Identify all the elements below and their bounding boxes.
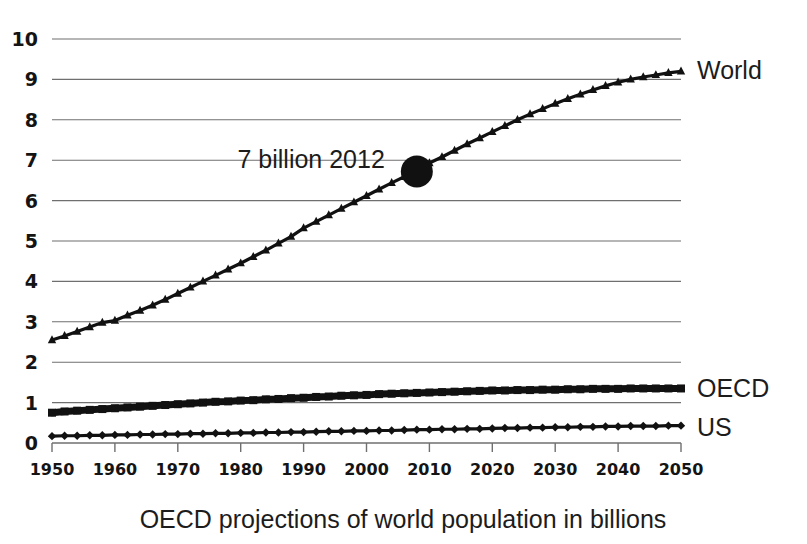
- data-point-marker: [136, 403, 144, 411]
- x-tick-label: 2050: [659, 460, 704, 479]
- data-point-marker: [677, 421, 685, 429]
- data-point-marker: [174, 400, 182, 408]
- data-point-marker: [425, 389, 433, 397]
- y-tick-label: 6: [25, 190, 38, 212]
- data-point-marker: [224, 429, 232, 437]
- data-point-marker: [287, 428, 295, 436]
- data-point-marker: [375, 390, 383, 398]
- data-point-marker: [274, 428, 282, 436]
- data-point-marker: [98, 431, 106, 439]
- data-point-marker: [576, 385, 584, 393]
- y-tick-label: 7: [25, 149, 38, 171]
- data-point-marker: [564, 423, 572, 431]
- series-layer: [48, 66, 685, 440]
- x-tick-label: 1960: [93, 460, 138, 479]
- data-point-marker: [212, 398, 220, 406]
- data-point-marker: [211, 429, 219, 437]
- x-axis-ticks: [52, 443, 681, 452]
- series-label-us: US: [697, 413, 732, 441]
- x-tick-label: 1990: [281, 460, 326, 479]
- data-point-marker: [73, 432, 81, 440]
- data-point-marker: [363, 391, 371, 399]
- data-point-marker: [463, 425, 471, 433]
- x-tick-label: 2020: [470, 460, 515, 479]
- series-us: [48, 421, 685, 440]
- series-label-world: World: [697, 56, 762, 84]
- series-line: [52, 71, 681, 340]
- y-tick-label: 5: [25, 230, 38, 252]
- data-point-marker: [513, 386, 521, 394]
- data-point-marker: [639, 384, 647, 392]
- y-tick-label: 1: [25, 392, 38, 414]
- data-point-marker: [476, 387, 484, 395]
- data-point-marker: [274, 395, 282, 403]
- data-point-marker: [98, 405, 106, 413]
- data-point-marker: [86, 406, 94, 414]
- data-point-marker: [325, 427, 333, 435]
- data-point-marker: [48, 432, 56, 440]
- data-point-marker: [199, 399, 207, 407]
- data-point-marker: [186, 430, 194, 438]
- data-point-marker: [538, 423, 546, 431]
- data-point-marker: [249, 429, 257, 437]
- data-point-marker: [400, 426, 408, 434]
- data-point-marker: [387, 426, 395, 434]
- y-axis-tick-labels: 012345678910: [12, 28, 38, 454]
- x-tick-label: 1980: [218, 460, 263, 479]
- data-point-marker: [589, 385, 597, 393]
- data-point-marker: [438, 388, 446, 396]
- data-point-marker: [488, 424, 496, 432]
- data-point-marker: [174, 430, 182, 438]
- chart-caption: OECD projections of world population in …: [140, 505, 667, 533]
- series-labels: WorldOECDUS: [697, 56, 769, 440]
- data-point-marker: [350, 391, 358, 399]
- data-point-marker: [287, 394, 295, 402]
- data-point-marker: [86, 431, 94, 439]
- data-point-marker: [513, 424, 521, 432]
- data-point-marker: [602, 385, 610, 393]
- annotation-point-marker: [401, 156, 433, 188]
- data-point-marker: [539, 386, 547, 394]
- x-tick-label: 1970: [156, 460, 201, 479]
- data-point-marker: [576, 423, 584, 431]
- data-point-marker: [337, 392, 345, 400]
- data-point-marker: [589, 423, 597, 431]
- data-point-marker: [501, 424, 509, 432]
- data-point-marker: [388, 390, 396, 398]
- x-tick-label: 1950: [30, 460, 75, 479]
- data-point-marker: [186, 399, 194, 407]
- data-point-marker: [551, 386, 559, 394]
- data-point-marker: [463, 387, 471, 395]
- data-point-marker: [337, 427, 345, 435]
- data-point-marker: [413, 425, 421, 433]
- data-point-marker: [614, 422, 622, 430]
- data-point-marker: [450, 425, 458, 433]
- data-point-marker: [312, 427, 320, 435]
- data-point-marker: [476, 425, 484, 433]
- y-tick-label: 2: [25, 351, 38, 373]
- data-point-marker: [664, 421, 672, 429]
- series-label-oecd: OECD: [697, 374, 769, 402]
- data-point-marker: [526, 386, 534, 394]
- data-point-marker: [639, 422, 647, 430]
- data-point-marker: [136, 430, 144, 438]
- data-point-marker: [614, 385, 622, 393]
- annotation-layer: 7 billion 2012: [237, 145, 432, 188]
- chart-figure: 012345678910 195019601970198019902000201…: [0, 0, 807, 544]
- data-point-marker: [438, 425, 446, 433]
- x-tick-label: 2030: [533, 460, 578, 479]
- data-point-marker: [199, 430, 207, 438]
- data-point-marker: [262, 428, 270, 436]
- data-point-marker: [413, 389, 421, 397]
- y-tick-label: 8: [25, 109, 38, 131]
- data-point-marker: [312, 393, 320, 401]
- series-world: [48, 66, 685, 343]
- y-tick-label: 9: [25, 68, 38, 90]
- data-point-marker: [362, 427, 370, 435]
- data-point-marker: [350, 427, 358, 435]
- x-tick-label: 2010: [407, 460, 452, 479]
- data-point-marker: [627, 384, 635, 392]
- data-point-marker: [60, 432, 68, 440]
- y-tick-label: 3: [25, 311, 38, 333]
- x-tick-label: 2000: [344, 460, 389, 479]
